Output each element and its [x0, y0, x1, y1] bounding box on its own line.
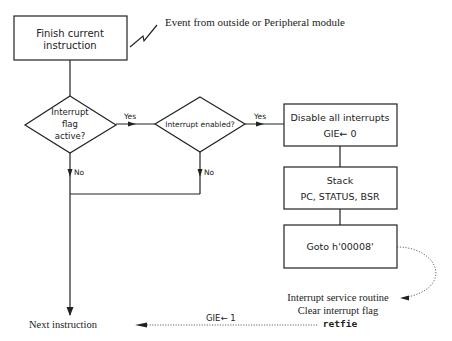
- gie-set-label: GIE← 1: [206, 313, 236, 323]
- interrupt-flowchart: Finish current instruction Event from ou…: [0, 0, 452, 341]
- arrowhead-icon: [256, 122, 264, 127]
- disable-interrupts-box: Disable all interrupts GIE← 0: [284, 104, 397, 146]
- arrowhead-icon: [198, 169, 203, 177]
- flag-decision-line2: flag: [62, 119, 78, 129]
- next-instruction-label: Next instruction: [29, 319, 98, 330]
- arrowhead-icon: [68, 169, 73, 177]
- lightning-bolt-icon: [130, 25, 157, 47]
- edge-goto-to-isr: [397, 247, 436, 298]
- goto-box: Goto h'00008': [284, 225, 397, 268]
- disable-label-line2: GIE← 0: [323, 128, 356, 139]
- stack-box: Stack PC, STATUS, BSR: [284, 167, 397, 209]
- isr-label-line2: Clear interrupt flag: [298, 305, 379, 316]
- arrowhead-icon: [135, 323, 147, 328]
- finish-instruction-box: Finish current instruction: [14, 16, 127, 60]
- stack-label-line1: Stack: [327, 175, 354, 186]
- stack-label-line2: PC, STATUS, BSR: [300, 191, 379, 202]
- flag-decision-line1: Interrupt: [51, 107, 89, 117]
- arrowhead-icon: [67, 307, 74, 316]
- arrowhead-icon: [400, 296, 409, 301]
- goto-label: Goto h'00008': [306, 241, 373, 252]
- flag-decision-line3: active?: [55, 131, 85, 141]
- finish-label-line1: Finish current: [36, 28, 104, 39]
- isr-label-retfie: retfie: [323, 318, 358, 329]
- finish-label-line2: instruction: [43, 40, 96, 51]
- isr-label-line1: Interrupt service routine: [287, 292, 389, 303]
- flag-active-decision: Interrupt flag active?: [25, 96, 116, 153]
- no-label-2: No: [204, 168, 215, 177]
- enabled-decision-label: Interrupt enabled?: [165, 120, 235, 129]
- disable-label-line1: Disable all interrupts: [291, 112, 390, 123]
- yes-label-2: Yes: [253, 112, 266, 121]
- no-label-1: No: [74, 168, 85, 177]
- arrowhead-icon: [128, 122, 136, 127]
- event-label: Event from outside or Peripheral module: [165, 16, 345, 28]
- interrupt-enabled-decision: Interrupt enabled?: [155, 97, 245, 152]
- yes-label-1: Yes: [123, 112, 136, 121]
